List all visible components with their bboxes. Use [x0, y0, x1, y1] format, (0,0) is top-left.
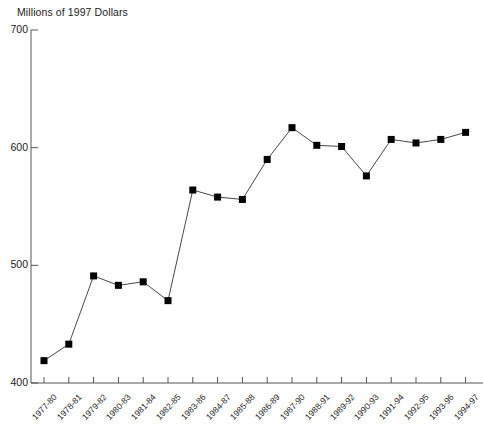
data-point-marker: [90, 272, 97, 279]
y-axis-tick-label: 500: [0, 258, 28, 270]
data-point-marker: [363, 172, 370, 179]
data-point-marker: [289, 124, 296, 131]
chart-plot-area: [0, 0, 483, 437]
chart-container: Millions of 1997 Dollars 400500600700 19…: [0, 0, 483, 437]
data-point-marker: [115, 282, 122, 289]
data-point-marker: [214, 194, 221, 201]
data-point-marker: [239, 196, 246, 203]
data-point-marker: [65, 341, 72, 348]
data-point-marker: [388, 136, 395, 143]
data-point-marker: [41, 357, 48, 364]
data-point-marker: [165, 297, 172, 304]
y-axis-tick-label: 700: [0, 23, 28, 35]
data-point-marker: [140, 278, 147, 285]
data-point-marker: [264, 156, 271, 163]
data-point-marker: [338, 143, 345, 150]
y-axis-tick-label: 400: [0, 376, 28, 388]
y-axis-tick-label: 600: [0, 141, 28, 153]
data-point-marker: [189, 187, 196, 194]
data-point-marker: [437, 136, 444, 143]
data-point-marker: [313, 142, 320, 149]
data-point-marker: [462, 129, 469, 136]
data-point-marker: [413, 139, 420, 146]
